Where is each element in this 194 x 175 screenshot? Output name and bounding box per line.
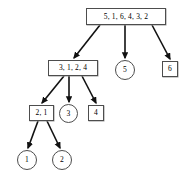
tree-node-label: 3 — [67, 109, 71, 117]
tree-node-n3: 3 — [59, 104, 78, 123]
tree-node-label: 6 — [168, 65, 172, 73]
tree-edge — [47, 121, 60, 148]
tree-edge — [42, 76, 64, 103]
tree-node-root: 5, 1, 6, 4, 3, 2 — [86, 8, 166, 25]
tree-node-label: 4 — [94, 109, 98, 117]
tree-node-n1: 1 — [17, 150, 37, 170]
tree-edge — [28, 121, 38, 148]
tree-node-n2: 2 — [52, 150, 72, 170]
tree-node-n3124: 3, 1, 2, 4 — [48, 60, 98, 76]
tree-node-label: 2, 1 — [35, 109, 47, 117]
edge-layer — [0, 0, 194, 175]
tree-node-label: 2 — [60, 156, 64, 164]
edges-group — [28, 25, 170, 148]
tree-edge — [152, 25, 170, 59]
recursion-tree-diagram: 5, 1, 6, 4, 3, 23, 1, 2, 4562, 13412 — [0, 0, 194, 175]
tree-edge — [82, 76, 96, 103]
tree-node-label: 3, 1, 2, 4 — [59, 64, 87, 72]
tree-node-n6: 6 — [162, 61, 178, 77]
tree-node-label: 1 — [25, 156, 29, 164]
tree-node-label: 5 — [123, 66, 127, 74]
tree-node-n4: 4 — [88, 105, 104, 121]
tree-node-n21: 2, 1 — [29, 105, 54, 121]
tree-edge — [74, 25, 100, 58]
tree-node-label: 5, 1, 6, 4, 3, 2 — [104, 12, 148, 20]
tree-node-n5: 5 — [115, 60, 135, 80]
